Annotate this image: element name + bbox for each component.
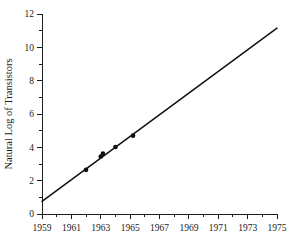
trend-line: [42, 28, 277, 201]
y-tick-label: 4: [29, 143, 34, 153]
x-tick-label: 1967: [150, 223, 169, 233]
x-tick-label: 1973: [238, 223, 257, 233]
y-axis-title: Natural Log of Transistors: [3, 58, 14, 169]
y-axis: 024681012: [25, 9, 43, 219]
x-tick-label: 1961: [62, 223, 81, 233]
y-tick-label: 0: [29, 209, 34, 219]
chart-series: [42, 28, 277, 201]
y-tick-label: 12: [25, 9, 35, 19]
x-tick-label: 1971: [209, 223, 228, 233]
x-tick-label: 1959: [33, 223, 52, 233]
chart-canvas: 024681012 195919611963196519671969197119…: [0, 0, 292, 250]
x-tick-label: 1965: [121, 223, 140, 233]
x-tick-label: 1975: [268, 223, 287, 233]
x-tick-label: 1963: [91, 223, 110, 233]
y-tick-label: 10: [25, 43, 35, 53]
x-axis: 195919611963196519671969197119731975: [33, 214, 287, 233]
y-tick-label: 2: [29, 176, 34, 186]
chart-figure: 024681012 195919611963196519671969197119…: [0, 0, 292, 250]
y-tick-label: 6: [29, 109, 34, 119]
x-tick-label: 1969: [179, 223, 198, 233]
y-tick-label: 8: [29, 76, 34, 86]
